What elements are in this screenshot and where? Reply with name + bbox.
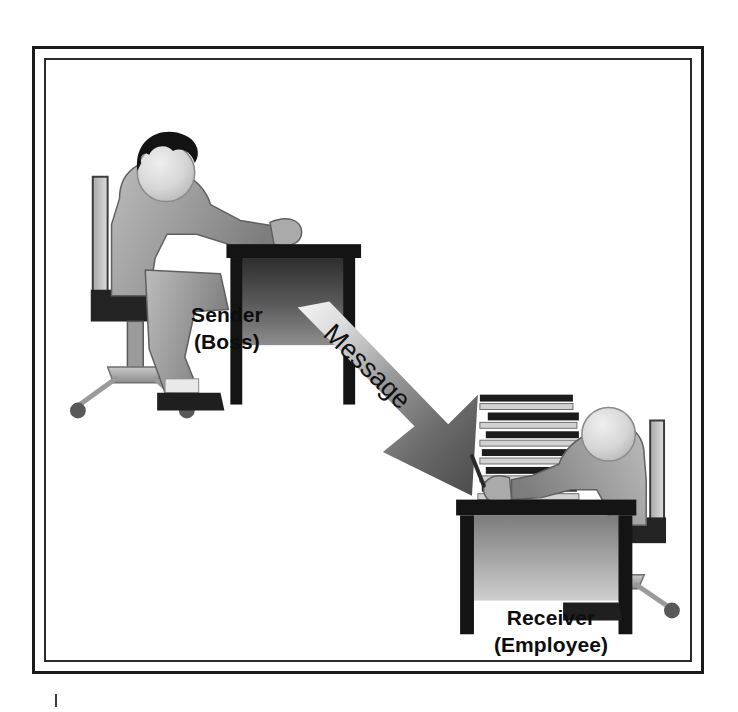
page-crop-tick: [55, 694, 57, 707]
sender-label-title: Sender: [191, 303, 263, 326]
receiver-chair-caster-right: [664, 603, 680, 619]
receiver-figure-group: [456, 395, 680, 635]
sender-chair-leg-left: [80, 379, 116, 405]
receiver-label: Receiver (Employee): [436, 605, 666, 659]
sender-label-subtitle: (Boss): [142, 329, 312, 356]
receiver-hand: [484, 476, 512, 503]
receiver-label-subtitle: (Employee): [436, 632, 666, 659]
sender-chair-column: [127, 321, 143, 369]
message-arrow-label: Message: [318, 318, 417, 415]
diagram-canvas: Message: [46, 60, 690, 660]
receiver-chair-leg-right: [636, 585, 668, 607]
figure-frame-inner-border: Message: [44, 58, 692, 662]
message-arrow-group: Message: [298, 302, 478, 496]
sender-shoe: [157, 393, 224, 411]
sender-chair-backrest: [93, 177, 108, 296]
sender-sock: [165, 379, 199, 393]
receiver-desk-top: [456, 500, 636, 516]
figure-frame: Message: [32, 46, 704, 674]
sender-chair-caster-left: [70, 403, 86, 419]
receiver-head: [582, 408, 635, 461]
sender-label: Sender (Boss): [142, 302, 312, 356]
receiver-desk-panel: [472, 515, 621, 600]
communication-diagram-svg: Message: [46, 60, 690, 660]
receiver-label-title: Receiver: [507, 606, 595, 629]
sender-hand: [270, 219, 302, 246]
sender-desk-top: [226, 244, 361, 258]
sender-figure-group: [70, 132, 361, 419]
receiver-chair-backrest: [650, 420, 664, 527]
